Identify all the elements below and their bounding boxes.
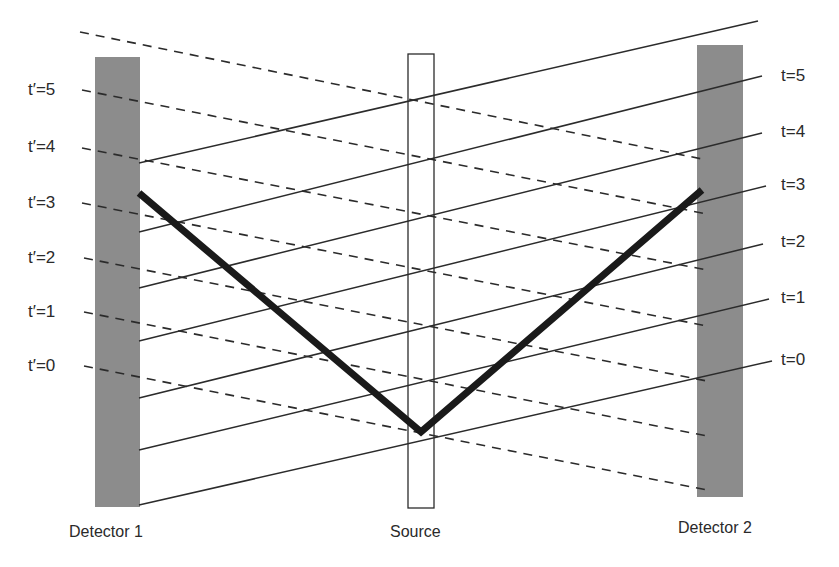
label-t-prime-0: t′=0 (28, 356, 55, 376)
label-t-5: t=5 (781, 66, 805, 86)
caption-detector-1: Detector 1 (69, 522, 143, 542)
label-t-0: t=0 (781, 350, 805, 370)
dashed-line-5 (84, 312, 707, 436)
label-t-prime-2: t′=2 (28, 248, 55, 268)
source-box (408, 54, 434, 508)
caption-source: Source (390, 522, 441, 542)
detector-timing-diagram (0, 0, 839, 567)
label-t-3: t=3 (781, 175, 805, 195)
label-t-1: t=1 (781, 288, 805, 308)
label-t-2: t=2 (781, 232, 805, 252)
label-t-prime-3: t′=3 (28, 193, 55, 213)
caption-detector-2: Detector 2 (678, 518, 752, 538)
dashed-line-1 (82, 90, 707, 214)
label-t-prime-5: t′=5 (28, 80, 55, 100)
detector-1-bar (95, 57, 140, 507)
dashed-line-0 (80, 32, 707, 160)
detector-2-bar (697, 45, 743, 497)
solid-line-6 (139, 361, 772, 505)
solid-line-0 (139, 21, 758, 163)
source-layer (408, 54, 434, 508)
label-t-4: t=4 (781, 122, 805, 142)
label-t-prime-1: t′=1 (28, 302, 55, 322)
dashed-line-6 (84, 366, 707, 490)
solid-time-lines-t (139, 21, 772, 505)
dashed-line-2 (82, 148, 707, 270)
dashed-time-lines-t-prime (80, 32, 707, 490)
label-t-prime-4: t′=4 (28, 137, 55, 157)
dashed-line-4 (84, 258, 707, 381)
solid-line-1 (139, 76, 762, 232)
